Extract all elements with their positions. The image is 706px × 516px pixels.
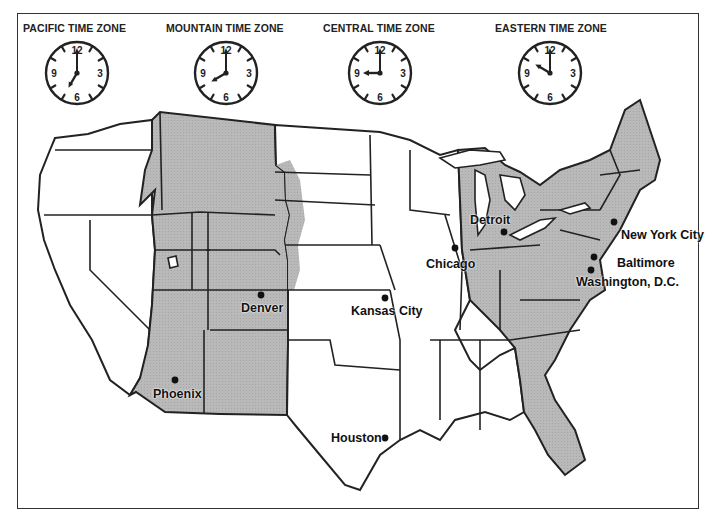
city-label-washington-dc: Washington, D.C. bbox=[576, 275, 679, 289]
city-label-baltimore: Baltimore bbox=[617, 256, 675, 270]
city-label-new-york-city: New York City bbox=[621, 228, 704, 242]
city-label-houston: Houston bbox=[331, 431, 382, 445]
city-label-chicago: Chicago bbox=[426, 257, 475, 271]
city-label-denver: Denver bbox=[241, 301, 283, 315]
city-label-detroit: Detroit bbox=[470, 213, 510, 227]
great-salt-lake bbox=[168, 256, 178, 268]
pacific-zone bbox=[38, 120, 155, 395]
city-label-phoenix: Phoenix bbox=[153, 387, 202, 401]
city-label-kansas-city: Kansas City bbox=[351, 304, 423, 318]
mountain-zone bbox=[130, 112, 290, 415]
